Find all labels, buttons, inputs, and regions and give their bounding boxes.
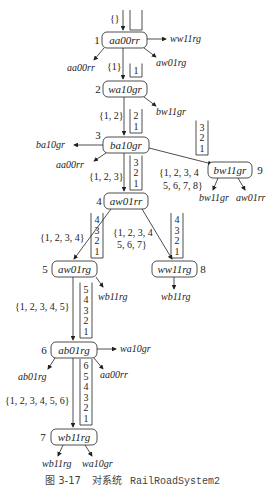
edge-1-left <box>94 48 104 60</box>
leaf-n7-left: wb11rg <box>42 458 71 469</box>
edge-2-right <box>144 97 156 106</box>
stack-item: 2 <box>175 235 180 246</box>
stack-item: 2 <box>95 235 100 246</box>
stack-e45: 4321 <box>91 213 103 258</box>
stack-item: 3 <box>95 225 100 236</box>
edge-label-e39-line2: 5, 6, 7, 8} <box>163 180 203 191</box>
stack-e23: 21 <box>130 109 142 133</box>
node-2-label: wa10gr <box>108 83 142 95</box>
edge-1-down-right <box>144 48 156 57</box>
node-2-number: 2 <box>95 83 101 95</box>
node-6-number: 6 <box>41 344 47 356</box>
edge-9-left <box>213 178 218 190</box>
node-9-number: 9 <box>257 164 263 176</box>
leaf-n1-right: ww11rg <box>170 33 201 44</box>
edge-label-e67: {1, 2, 3, 4, 5, 6} <box>5 395 70 406</box>
stack-item: 4 <box>84 381 89 392</box>
edge-label-start: {} <box>110 13 120 24</box>
node-1-number: 1 <box>94 34 100 46</box>
node-4-label: aw01rr <box>110 195 143 207</box>
leaf-n6-left: ab01rg <box>18 371 47 382</box>
leaf-n3-down-left: aa00rr <box>56 159 84 170</box>
stack-item: 3 <box>84 392 89 403</box>
edge-6-left <box>48 358 55 369</box>
stack-item: 1 <box>134 121 139 132</box>
node-3-number: 3 <box>95 129 101 141</box>
stack-e67: 654321 <box>80 359 92 425</box>
edge-label-e39-line1: {1, 2, 3, 4 <box>159 167 199 178</box>
edge-3-down-left <box>94 153 106 161</box>
caption-code: RailRoadSystem2 <box>130 476 220 487</box>
state-diagram: {} aa00rr 1 ww11rg aa00rr aw01rg {1} 1 w… <box>0 0 269 487</box>
stack-item: 1 <box>175 246 180 257</box>
edge-label-e56: {1, 2, 3, 4, 5} <box>15 301 70 312</box>
leaf-n6-down-right: aa00rr <box>100 369 128 380</box>
edge-5-right <box>96 277 103 287</box>
stack-item: 2 <box>200 132 205 143</box>
edge-6-down-right <box>94 358 103 369</box>
stack-item: 2 <box>134 110 139 121</box>
stack-item: 1 <box>134 178 139 189</box>
stack-e39: 321 <box>196 121 208 156</box>
stack-e56: 54321 <box>80 283 92 339</box>
node-8-label: ww11rg <box>157 263 192 275</box>
stack-start <box>130 10 142 30</box>
leaf-n6-right: wa10gr <box>120 343 151 354</box>
node-7-number: 7 <box>40 431 46 443</box>
edge-label-e12: {1} <box>107 61 122 72</box>
stack-item: 2 <box>134 167 139 178</box>
stack-item: 3 <box>175 225 180 236</box>
stack-item: 4 <box>95 214 100 225</box>
caption-text: 对系统 <box>92 474 122 486</box>
edge-label-e48-line1: {1, 2, 3, 4 <box>113 227 153 238</box>
node-8-number: 8 <box>200 263 206 275</box>
stack-item: 1 <box>200 143 205 154</box>
leaf-n2-right: bw11gr <box>156 106 186 117</box>
leaf-n5-right: wb11rg <box>98 291 127 302</box>
stack-e12: 1 <box>130 64 142 78</box>
leaf-n9-right: aw01rr <box>236 192 266 203</box>
node-5-number: 5 <box>42 263 48 275</box>
leaf-n8-down: wb11rg <box>161 291 190 302</box>
node-7-label: wb11rg <box>58 431 91 443</box>
stack-e34: 321 <box>130 156 142 191</box>
node-6-label: ab01rg <box>58 344 90 356</box>
edge-label-e48-line2: 5, 6, 7} <box>117 239 147 250</box>
caption-prefix: 图 3-17 <box>45 475 81 486</box>
stack-item: 1 <box>84 413 89 424</box>
stack-item: 4 <box>175 214 180 225</box>
node-4-number: 4 <box>96 195 102 207</box>
edge-label-e34: {1, 2, 3} <box>89 171 124 182</box>
edge-label-e45: {1, 2, 3, 4} <box>40 232 85 243</box>
stack-item: 3 <box>84 305 89 316</box>
stack-item: 5 <box>84 371 89 382</box>
edge-7-right <box>85 445 92 456</box>
stack-item: 4 <box>84 294 89 305</box>
stack-item: 3 <box>134 157 139 168</box>
edge-label-e23: {1, 2} <box>99 110 124 121</box>
stack-item: 5 <box>84 284 89 295</box>
stack-item: 2 <box>84 402 89 413</box>
node-1-label: aa00rr <box>109 34 140 46</box>
stack-item: 6 <box>84 360 89 371</box>
node-5-label: aw01rg <box>58 263 92 275</box>
leaf-n1-down-right: aw01rg <box>156 57 186 68</box>
node-3-label: ba10gr <box>110 139 143 151</box>
leaf-n7-right: wa10gr <box>82 458 113 469</box>
stack-e48: 4321 <box>171 213 183 258</box>
leaf-n3-left: ba10gr <box>36 139 65 150</box>
leaf-n1-left: aa00rr <box>67 62 95 73</box>
leaf-n9-left: bw11gr <box>199 192 229 203</box>
stack-item: 1 <box>84 326 89 337</box>
stack-item: 3 <box>200 122 205 133</box>
edge-9-right <box>238 178 245 190</box>
node-9-label: bw11gr <box>214 164 248 176</box>
edge-7-left <box>58 445 63 456</box>
stack-item: 1 <box>134 65 139 76</box>
stack-item: 2 <box>84 315 89 326</box>
stack-item: 1 <box>95 246 100 257</box>
